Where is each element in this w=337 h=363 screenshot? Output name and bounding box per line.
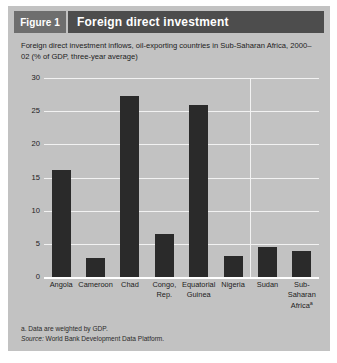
bar	[224, 256, 243, 277]
bar	[189, 105, 208, 277]
figure-title-bar: Foreign direct investment	[68, 11, 324, 33]
y-tick-label: 20	[18, 139, 40, 148]
y-tick-label: 0	[18, 272, 40, 281]
gridline	[44, 78, 319, 79]
figure-number-badge: Figure 1	[14, 11, 66, 33]
bar	[155, 234, 174, 277]
gridline	[44, 178, 319, 179]
footnote-a: a. Data are weighted by GDP.	[21, 324, 311, 334]
gridline	[44, 111, 319, 112]
bar	[86, 258, 105, 277]
bar	[292, 251, 311, 277]
x-tick-label-line: Africaa	[281, 299, 323, 311]
source-label: Source:	[21, 335, 44, 342]
y-tick-label: 30	[18, 73, 40, 82]
y-tick-label: 10	[18, 206, 40, 215]
chart-subtitle: Foreign direct investment inflows, oil-e…	[21, 40, 313, 62]
bar	[52, 170, 71, 277]
group-separator-line	[250, 78, 251, 278]
y-tick-label: 25	[18, 106, 40, 115]
x-tick-label-line: Guinea	[178, 290, 220, 300]
source-text: World Bank Development Data Platform.	[44, 335, 164, 342]
x-axis-line	[44, 277, 319, 279]
x-tick-label-line: Saharan	[281, 290, 323, 300]
chart-plot-area: 051015202530	[44, 78, 319, 278]
footnote-marker: a	[310, 300, 313, 306]
figure-footnotes: a. Data are weighted by GDP. Source: Wor…	[21, 324, 311, 343]
bar	[120, 96, 139, 277]
y-tick-label: 15	[18, 173, 40, 182]
gridline	[44, 244, 319, 245]
x-axis-tick-labels: AngolaCameroonChadCongo,Rep.EquatorialGu…	[44, 280, 319, 320]
figure-title: Foreign direct investment	[68, 15, 229, 29]
bar	[258, 247, 277, 278]
x-tick-label: Sub-SaharanAfricaa	[281, 280, 323, 311]
x-tick-label-line: Sub-	[281, 280, 323, 290]
y-tick-label: 5	[18, 239, 40, 248]
figure-header: Figure 1 Foreign direct investment	[14, 11, 324, 33]
gridline	[44, 144, 319, 145]
gridline	[44, 211, 319, 212]
figure-panel: Figure 1 Foreign direct investment Forei…	[8, 6, 330, 351]
source-line: Source: World Bank Development Data Plat…	[21, 334, 311, 344]
